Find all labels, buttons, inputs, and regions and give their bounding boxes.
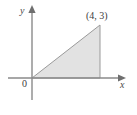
coordinate-plane-figure <box>0 0 137 115</box>
x-axis-label: x <box>120 80 124 90</box>
figure-container: y x 0 (4, 3) <box>0 0 137 115</box>
vertex-coordinate-label: (4, 3) <box>86 11 108 21</box>
y-axis-label: y <box>20 6 24 16</box>
y-axis-arrow-icon <box>28 5 35 13</box>
origin-label: 0 <box>22 79 27 89</box>
shaded-right-triangle <box>32 25 100 78</box>
